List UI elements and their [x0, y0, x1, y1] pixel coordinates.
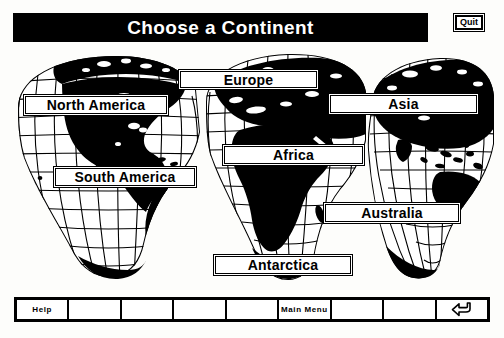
continent-label-australia: Australia — [325, 204, 459, 222]
continent-button-north-america[interactable]: North America — [23, 94, 169, 116]
continent-button-south-america[interactable]: South America — [53, 166, 197, 188]
toolbar-button-blank-5 — [332, 300, 384, 319]
continent-button-europe[interactable]: Europe — [178, 69, 319, 90]
toolbar-button-blank-3 — [174, 300, 226, 319]
continent-label-north-america: North America — [25, 96, 167, 114]
continent-label-europe: Europe — [180, 71, 317, 88]
toolbar-button-blank-4 — [227, 300, 279, 319]
title-bar: Choose a Continent — [13, 13, 428, 42]
continent-label-antarctica: Antarctica — [215, 256, 351, 274]
continent-button-antarctica[interactable]: Antarctica — [213, 254, 353, 276]
toolbar-button-blank-2 — [122, 300, 174, 319]
return-arrow-icon — [451, 302, 473, 317]
continent-label-south-america: South America — [55, 168, 195, 186]
bottom-toolbar: Help Main Menu — [14, 297, 490, 322]
continent-button-australia[interactable]: Australia — [323, 202, 461, 224]
quit-button-label: Quit — [455, 15, 483, 30]
toolbar-button-blank-6 — [384, 300, 436, 319]
choose-a-continent-screen: Choose a Continent Quit — [0, 0, 504, 338]
toolbar-button-help[interactable]: Help — [17, 300, 69, 319]
continent-button-africa[interactable]: Africa — [222, 144, 365, 166]
world-map: North America Europe Asia Africa South A… — [0, 48, 504, 284]
quit-button[interactable]: Quit — [453, 13, 485, 32]
continent-label-africa: Africa — [224, 146, 363, 164]
continent-button-asia[interactable]: Asia — [328, 93, 479, 115]
toolbar-button-enter[interactable] — [437, 300, 487, 319]
continent-label-asia: Asia — [330, 95, 477, 113]
toolbar-button-blank-1 — [69, 300, 121, 319]
page-title: Choose a Continent — [127, 18, 314, 37]
toolbar-button-main-menu[interactable]: Main Menu — [279, 300, 331, 319]
